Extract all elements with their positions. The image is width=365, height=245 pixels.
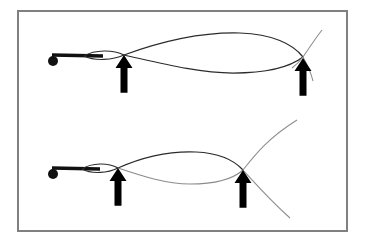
origin-stem	[52, 168, 100, 169]
origin-dot	[48, 169, 58, 179]
origin-dot	[48, 56, 58, 66]
figure-container	[0, 0, 365, 245]
origin-stem	[52, 55, 103, 56]
figure-canvas	[0, 0, 365, 245]
figure-border	[18, 11, 347, 231]
